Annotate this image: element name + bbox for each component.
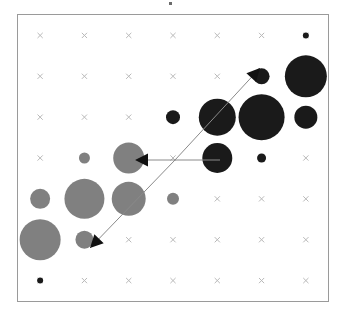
grid-cross-icon (215, 237, 220, 242)
bubble-marker (166, 110, 180, 124)
grid-cross-icon (215, 196, 220, 201)
grid-cross-icon (170, 278, 175, 283)
grid-cross-icon (38, 33, 43, 38)
grid-cross-icon (303, 196, 308, 201)
grid-cross-icon (126, 74, 131, 79)
grid-cross-icon (38, 115, 43, 120)
bubble-marker (303, 32, 309, 38)
grid-cross-icon (126, 33, 131, 38)
bubble-marker (294, 106, 317, 129)
grid-cross-icon (303, 278, 308, 283)
chart-canvas (0, 0, 347, 316)
bubble-marker (112, 182, 146, 216)
grid-cross-icon (259, 196, 264, 201)
grid-cross-icon (215, 33, 220, 38)
bubble-marker (20, 219, 61, 260)
grid-cross-icon (126, 237, 131, 242)
grid-cross-icon (215, 278, 220, 283)
grid-cross-icon (259, 237, 264, 242)
grid-cross-icon (303, 155, 308, 160)
bubble-marker (37, 278, 43, 284)
bubble-marker (30, 189, 50, 209)
grid-cross-icon (215, 74, 220, 79)
bubble-marker (79, 153, 90, 164)
grid-cross-icon (38, 155, 43, 160)
grid-cross-icon (303, 237, 308, 242)
grid-cross-icon (170, 237, 175, 242)
grid-cross-icon (126, 278, 131, 283)
grid-cross-icon (259, 33, 264, 38)
bubble-marker (239, 94, 285, 140)
grid-cross-icon (170, 33, 175, 38)
grid-cross-icon (82, 115, 87, 120)
top-edge-tick-mark (169, 2, 172, 5)
bubble-marker (257, 154, 266, 163)
bubble-marker (167, 193, 179, 205)
bubble-marker (64, 179, 104, 219)
grid-cross-icon (82, 278, 87, 283)
grid-cross-icon (126, 115, 131, 120)
grid-cross-icon (82, 74, 87, 79)
bubble-marker (202, 143, 232, 173)
grid-cross-icon (259, 278, 264, 283)
bubble-marker (285, 55, 327, 97)
bubble-scatter-plot (0, 0, 347, 316)
grid-cross-icon (82, 33, 87, 38)
bubble-marker (199, 99, 236, 136)
grid-cross-icon (170, 74, 175, 79)
grid-cross-icon (38, 74, 43, 79)
